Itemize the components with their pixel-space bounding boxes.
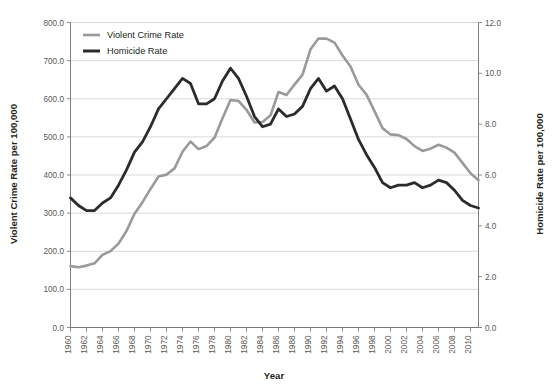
x-axis-tick-label: 1970 (144, 335, 153, 354)
right-axis-title: Homicide Rate per 100,000 (534, 113, 545, 235)
x-axis-tick-label: 1978 (208, 335, 217, 354)
x-axis-tick-label: 1990 (304, 335, 313, 354)
x-axis-tick-label: 1986 (272, 335, 281, 354)
x-axis-tick-label: 1996 (352, 335, 361, 354)
x-axis-tick-label: 1968 (128, 335, 137, 354)
left-axis-tick-label: 800.0 (44, 19, 65, 28)
left-axis-tick-label: 100.0 (44, 285, 65, 294)
x-axis-tick-label: 1992 (320, 335, 329, 354)
x-axis-tick-label: 1966 (112, 335, 121, 354)
right-axis-tick-label: 0.0 (485, 324, 497, 333)
left-axis-tick-label: 300.0 (44, 209, 65, 218)
left-axis-title: Violent Crime Rate per 100,000 (8, 104, 19, 244)
x-axis-tick-label: 1974 (176, 335, 185, 354)
x-axis-tick-label: 2002 (400, 335, 409, 354)
left-axis-tick-label: 0.0 (53, 324, 65, 333)
x-axis-title: Year (264, 370, 285, 381)
x-axis-tick-label: 1960 (64, 335, 73, 354)
x-axis-tick-label: 2010 (464, 335, 473, 354)
x-axis-tick-label: 2008 (448, 335, 457, 354)
x-axis-tick-label: 2000 (384, 335, 393, 354)
x-axis-tick-label: 1998 (368, 335, 377, 354)
left-axis-tick-label: 400.0 (44, 171, 65, 180)
right-axis-tick-label: 4.0 (485, 222, 497, 231)
right-axis-tick-label: 2.0 (485, 273, 497, 282)
chart-background (0, 0, 555, 392)
right-axis-tick-label: 8.0 (485, 120, 497, 129)
left-axis-tick-label: 600.0 (44, 95, 65, 104)
x-axis-tick-label: 2004 (416, 335, 425, 354)
x-axis-tick-label: 2006 (432, 335, 441, 354)
right-axis-tick-label: 10.0 (485, 69, 501, 78)
x-axis-tick-label: 1980 (224, 335, 233, 354)
x-axis-tick-label: 1976 (192, 335, 201, 354)
left-axis-tick-label: 500.0 (44, 133, 65, 142)
x-axis-tick-label: 1972 (160, 335, 169, 354)
left-axis-tick-label: 700.0 (44, 57, 65, 66)
x-axis-tick-label: 1982 (240, 335, 249, 354)
legend-label-homicide-rate: Homicide Rate (107, 46, 167, 56)
left-axis-tick-label: 200.0 (44, 247, 65, 256)
x-axis-tick-label: 1988 (288, 335, 297, 354)
x-axis-tick-label: 1962 (80, 335, 89, 354)
violent-crime-homicide-line-chart: 0.0100.0200.0300.0400.0500.0600.0700.080… (0, 0, 555, 392)
x-axis-tick-label: 1984 (256, 335, 265, 354)
right-axis-tick-label: 6.0 (485, 171, 497, 180)
x-axis-tick-label: 1964 (96, 335, 105, 354)
x-axis-tick-label: 1994 (336, 335, 345, 354)
chart-figure: 0.0100.0200.0300.0400.0500.0600.0700.080… (0, 0, 555, 392)
legend-label-violent-crime-rate: Violent Crime Rate (107, 30, 184, 40)
right-axis-tick-label: 12.0 (485, 19, 501, 28)
